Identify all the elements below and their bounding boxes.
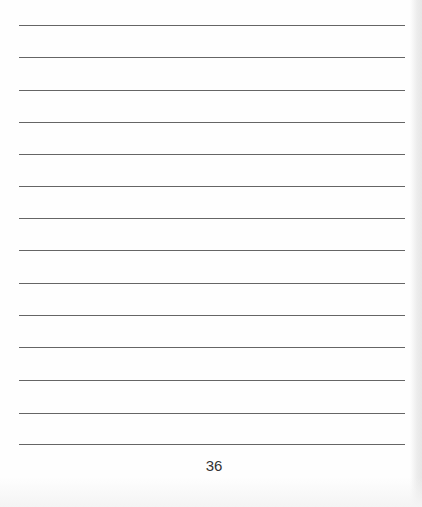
notes-page: 36 [0, 0, 422, 507]
ruled-line [19, 444, 405, 445]
ruled-line [19, 154, 405, 155]
ruled-line [19, 122, 405, 123]
ruled-line [19, 413, 405, 414]
page-edge-shadow [410, 0, 422, 507]
ruled-line [19, 250, 405, 251]
page-number: 36 [0, 457, 422, 474]
page-bottom-shadow [0, 477, 422, 507]
ruled-line [19, 25, 405, 26]
ruled-line [19, 347, 405, 348]
ruled-line [19, 218, 405, 219]
ruled-line [19, 380, 405, 381]
ruled-line [19, 186, 405, 187]
ruled-line [19, 283, 405, 284]
ruled-line [19, 57, 405, 58]
ruled-line [19, 315, 405, 316]
ruled-line [19, 90, 405, 91]
